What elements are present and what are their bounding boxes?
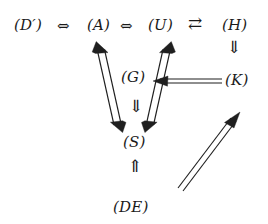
iff-a-u-icon: ⇔ (120, 19, 133, 34)
down-g-s-icon: ⇓ (129, 98, 143, 115)
rightleft-u-h-icon: ⇄ (188, 15, 202, 32)
node-a: (A) (87, 18, 110, 33)
node-k: (K) (225, 73, 249, 88)
iff-d-a-icon: ⇔ (57, 19, 70, 34)
node-s: (S) (123, 135, 146, 150)
node-d-prime: (D′) (14, 18, 42, 33)
arrow-k-to-g (153, 76, 222, 86)
up-de-s-icon: ⇑ (128, 158, 142, 175)
node-de: (DE) (113, 200, 148, 215)
double-arrow-s-a (92, 42, 126, 133)
arrow-de-to-k (178, 112, 240, 191)
node-u: (U) (148, 18, 173, 33)
node-g: (G) (121, 70, 145, 85)
down-h-k-icon: ⇓ (227, 39, 241, 56)
implication-diagram: (D′) (A) (U) (H) (G) (K) (S) (DE) ⇔ ⇔ ⇄ … (0, 0, 268, 224)
double-arrow-s-u (142, 42, 176, 133)
node-h: (H) (222, 18, 247, 33)
